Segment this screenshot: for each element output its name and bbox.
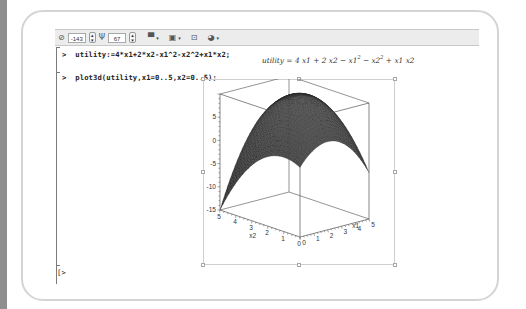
command-output-1: utility = 4 x1 + 2 x2 − x12 − x22 + x1 x… bbox=[262, 56, 415, 65]
bracket-tick bbox=[56, 72, 60, 73]
projection-icon[interactable]: ⊡ bbox=[191, 33, 198, 43]
orientation-icon: ⊘ bbox=[58, 33, 65, 43]
style-dropdown-icon[interactable]: ▾ bbox=[156, 35, 159, 41]
theta-field[interactable]: -143 bbox=[68, 33, 86, 43]
phi-spinner[interactable]: ▴▾ bbox=[129, 32, 136, 43]
svg-text:-10: -10 bbox=[207, 183, 217, 190]
prompt-symbol: > bbox=[62, 50, 66, 59]
bracket-tick bbox=[56, 265, 60, 266]
lighting-icon[interactable]: ◕ bbox=[207, 33, 214, 43]
color-dropdown-icon[interactable]: ▾ bbox=[178, 35, 181, 41]
svg-text:0: 0 bbox=[302, 239, 306, 246]
svg-text:1: 1 bbox=[316, 235, 320, 242]
svg-text:-5: -5 bbox=[210, 160, 216, 167]
svg-text:x2: x2 bbox=[249, 232, 256, 239]
execution-group-bracket[interactable] bbox=[56, 47, 59, 284]
svg-text:5: 5 bbox=[217, 213, 221, 220]
command-input-2[interactable]: plot3d(utility,x1=0..5,x2=0..5); bbox=[75, 73, 217, 82]
svg-text:x1: x1 bbox=[352, 222, 359, 229]
theta-spinner[interactable]: ▴▾ bbox=[89, 32, 96, 43]
svg-text:1: 1 bbox=[281, 235, 285, 242]
surface-plot[interactable]: 012345x1012345x250-5-10-15 bbox=[203, 79, 395, 265]
tilt-icon: Ψ bbox=[99, 33, 105, 43]
color-icon[interactable]: ▣ bbox=[169, 33, 177, 43]
svg-text:-15: -15 bbox=[207, 206, 217, 213]
plot-toolbar: ⊘ -143 ▴▾ Ψ 67 ▴▾ ▀ ▾ ▣ ▾ ⊡ ◕ ▾ bbox=[55, 29, 479, 46]
svg-text:5: 5 bbox=[212, 113, 216, 120]
svg-text:0: 0 bbox=[212, 137, 216, 144]
svg-text:3: 3 bbox=[249, 224, 253, 231]
style-icon[interactable]: ▀ bbox=[148, 33, 154, 43]
lighting-dropdown-icon[interactable]: ▾ bbox=[216, 35, 219, 41]
bracket-tick bbox=[56, 47, 60, 48]
prompt-symbol: > bbox=[62, 73, 66, 82]
svg-text:2: 2 bbox=[330, 232, 334, 239]
phi-field[interactable]: 67 bbox=[108, 33, 126, 43]
empty-prompt[interactable]: [> bbox=[57, 268, 66, 277]
command-line-1[interactable]: > utility:=4*x1+2*x2-x1^2-x2^2+x1*x2; bbox=[62, 50, 230, 59]
svg-text:4: 4 bbox=[233, 218, 237, 225]
svg-text:2: 2 bbox=[265, 229, 269, 236]
command-input-1[interactable]: utility:=4*x1+2*x2-x1^2-x2^2+x1*x2; bbox=[75, 50, 230, 59]
svg-text:0: 0 bbox=[297, 240, 301, 247]
command-line-2[interactable]: > plot3d(utility,x1=0..5,x2=0..5); bbox=[62, 73, 217, 82]
svg-text:5: 5 bbox=[371, 221, 375, 228]
left-edge-strip bbox=[0, 0, 7, 309]
svg-text:3: 3 bbox=[344, 228, 348, 235]
